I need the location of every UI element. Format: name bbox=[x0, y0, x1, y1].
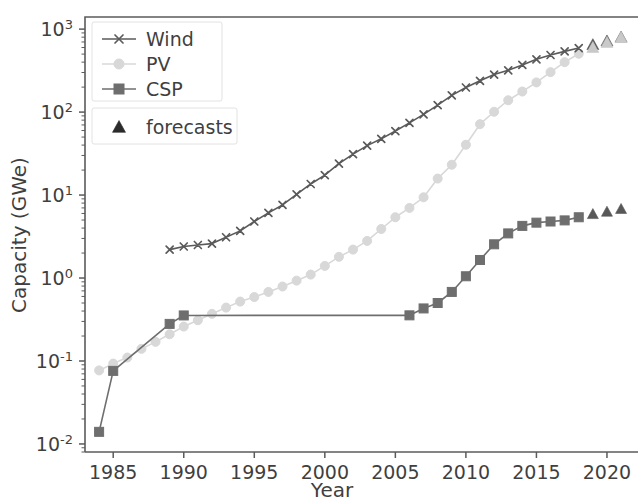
datapoint-pv bbox=[504, 96, 513, 105]
legend-label-wind: Wind bbox=[146, 28, 194, 50]
datapoint-pv bbox=[405, 203, 414, 212]
datapoint-csp bbox=[490, 240, 499, 249]
chart-figure: 10-210-1100101102103 1985199019952000200… bbox=[0, 0, 639, 503]
x-tick-label-0: 1985 bbox=[89, 461, 137, 483]
datapoint-pv bbox=[222, 303, 231, 312]
legend-label-csp: CSP bbox=[146, 78, 183, 100]
legend-label-forecasts: forecasts bbox=[146, 116, 233, 138]
y-axis-label: Capacity (GWe) bbox=[7, 157, 31, 313]
datapoint-pv bbox=[278, 282, 287, 291]
x-axis-label: Year bbox=[310, 478, 354, 502]
datapoint-csp bbox=[95, 427, 104, 436]
datapoint-pv bbox=[123, 353, 132, 362]
datapoint-pv bbox=[461, 140, 470, 149]
datapoint-csp bbox=[109, 366, 118, 375]
datapoint-csp bbox=[419, 304, 428, 313]
datapoint-pv bbox=[349, 245, 358, 254]
x-tick-label-6: 2015 bbox=[512, 461, 560, 483]
datapoint-pv bbox=[165, 330, 174, 339]
datapoint-pv bbox=[560, 58, 569, 67]
x-tick-label-5: 2010 bbox=[442, 461, 490, 483]
datapoint-pv bbox=[306, 270, 315, 279]
datapoint-pv bbox=[250, 293, 259, 302]
datapoint-csp bbox=[179, 311, 188, 320]
datapoint-pv bbox=[292, 276, 301, 285]
datapoint-csp bbox=[532, 218, 541, 227]
datapoint-pv bbox=[490, 107, 499, 116]
datapoint-pv bbox=[363, 236, 372, 245]
datapoint-pv bbox=[207, 309, 216, 318]
datapoint-csp bbox=[433, 299, 442, 308]
datapoint-csp bbox=[461, 272, 470, 281]
datapoint-csp bbox=[165, 319, 174, 328]
datapoint-pv bbox=[264, 287, 273, 296]
datapoint-pv bbox=[419, 193, 428, 202]
legend-marker-csp bbox=[114, 84, 124, 94]
datapoint-pv bbox=[179, 322, 188, 331]
datapoint-csp bbox=[574, 213, 583, 222]
datapoint-pv bbox=[447, 160, 456, 169]
datapoint-pv bbox=[476, 120, 485, 129]
datapoint-csp bbox=[504, 229, 513, 238]
datapoint-pv bbox=[193, 316, 202, 325]
datapoint-pv bbox=[518, 87, 527, 96]
datapoint-csp bbox=[546, 217, 555, 226]
x-tick-label-4: 2005 bbox=[371, 461, 419, 483]
datapoint-pv bbox=[236, 297, 245, 306]
legend-label-pv: PV bbox=[146, 53, 170, 75]
datapoint-pv bbox=[532, 78, 541, 87]
datapoint-pv bbox=[334, 252, 343, 261]
capacity-vs-year-log-chart: 10-210-1100101102103 1985199019952000200… bbox=[0, 0, 639, 503]
datapoint-csp bbox=[405, 311, 414, 320]
datapoint-pv bbox=[377, 224, 386, 233]
datapoint-pv bbox=[391, 213, 400, 222]
x-tick-label-7: 2020 bbox=[583, 461, 631, 483]
datapoint-csp bbox=[447, 287, 456, 296]
x-tick-label-1: 1990 bbox=[160, 461, 208, 483]
legend-marker-pv bbox=[114, 59, 124, 69]
datapoint-pv bbox=[433, 174, 442, 183]
datapoint-csp bbox=[560, 216, 569, 225]
chart-legend: WindPVCSPforecasts bbox=[92, 22, 237, 144]
datapoint-csp bbox=[518, 221, 527, 230]
x-tick-label-2: 1995 bbox=[230, 461, 278, 483]
datapoint-pv bbox=[546, 68, 555, 77]
datapoint-pv bbox=[320, 261, 329, 270]
datapoint-pv bbox=[95, 366, 104, 375]
datapoint-csp bbox=[476, 255, 485, 264]
